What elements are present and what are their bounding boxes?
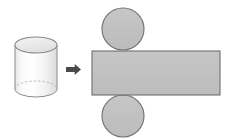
cylinder-net <box>92 8 220 137</box>
net-lateral-rectangle <box>92 51 220 95</box>
cylinder-shape <box>15 37 57 97</box>
cylinder-net-diagram <box>0 0 235 139</box>
net-bottom-circle <box>102 95 144 137</box>
transformation-arrow-icon <box>66 64 81 75</box>
net-top-circle <box>102 8 144 50</box>
cylinder-top-face <box>15 37 57 53</box>
diagram-canvas: Cylinder and its net <box>0 0 235 139</box>
